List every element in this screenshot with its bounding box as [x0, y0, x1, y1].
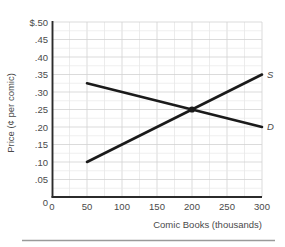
- y-tick-label: .15: [35, 139, 48, 150]
- y-tick-labels: $.50 .45 .40 .35 .30 .25 .20 .15 .10 .05…: [30, 17, 49, 209]
- x-tick-labels: 0 50 100 150 200 250 300: [49, 201, 270, 212]
- y-tick-label: 0: [43, 197, 48, 208]
- x-axis-title: Comic Books (thousands): [153, 219, 262, 230]
- equilibrium-point-marker: [189, 106, 195, 112]
- supply-curve-label: S: [267, 69, 274, 80]
- x-tick-label: 0: [49, 201, 54, 212]
- y-tick-label: .05: [35, 174, 48, 185]
- x-tick-label: 150: [149, 201, 165, 212]
- y-tick-label: .35: [35, 69, 48, 80]
- x-tick-label: 200: [184, 201, 200, 212]
- supply-demand-chart: $.50 .45 .40 .35 .30 .25 .20 .15 .10 .05…: [0, 0, 285, 247]
- y-tick-label: .40: [35, 52, 48, 63]
- demand-curve-label: D: [267, 121, 274, 132]
- x-tick-label: 300: [254, 201, 270, 212]
- x-tick-label: 100: [114, 201, 130, 212]
- chart-canvas: $.50 .45 .40 .35 .30 .25 .20 .15 .10 .05…: [0, 0, 285, 247]
- y-axis-title: Price (¢ per comic): [5, 73, 16, 153]
- y-tick-label: .10: [35, 157, 48, 168]
- x-tick-label: 250: [219, 201, 235, 212]
- y-tick-label: .30: [35, 87, 48, 98]
- y-tick-label: .20: [35, 122, 48, 133]
- y-tick-label: $.50: [30, 17, 49, 28]
- x-tick-label: 50: [82, 201, 93, 212]
- y-tick-label: .45: [35, 34, 48, 45]
- y-tick-label: .25: [35, 104, 48, 115]
